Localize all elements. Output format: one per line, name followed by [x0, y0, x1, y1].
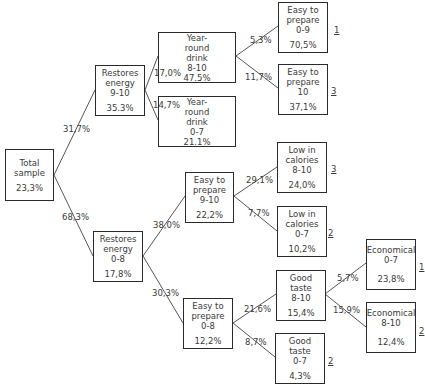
node-value: 70,5%	[289, 40, 316, 50]
node-value: 12,2%	[194, 336, 221, 346]
node-good-taste-0-7: Good taste 0-7 4,3%	[275, 333, 325, 384]
node-value: 23,3%	[16, 183, 43, 193]
rank-marker: 1	[334, 25, 339, 35]
node-label: Economical 8-10	[367, 308, 416, 328]
node-value: 23,8%	[377, 274, 404, 284]
edge-label: 8,7%	[245, 337, 267, 347]
node-label: Total sample	[14, 158, 45, 178]
node-value: 15,4%	[287, 308, 314, 318]
node-label: Year- round drink 0-7	[185, 97, 210, 137]
node-label: Year- round drink 8-10	[185, 33, 210, 73]
edge-label: 15,9%	[333, 305, 360, 315]
node-value: 37,1%	[289, 102, 316, 112]
node-easy-to-prepare-0-8: Easy to prepare 0-8 12,2%	[183, 298, 233, 349]
node-value: 47.5%	[183, 73, 210, 83]
node-restores-energy-0-8: Restores energy 0-8 17,8%	[93, 231, 143, 282]
node-label: Good taste 8-10	[290, 273, 312, 303]
node-value: 10,2%	[288, 244, 315, 254]
node-label: Low in calories 0-7	[286, 209, 319, 239]
node-label: Easy to prepare 0-9	[286, 5, 319, 35]
node-label: Easy to prepare 9-10	[193, 175, 226, 205]
node-easy-to-prepare-9-10: Easy to prepare 9-10 22,2%	[185, 172, 234, 223]
node-value: 21.1%	[183, 137, 210, 147]
rank-marker: 3	[331, 164, 336, 174]
node-total-sample: Total sample 23,3%	[5, 149, 54, 201]
node-value: 12,4%	[377, 337, 404, 347]
edge-label: 17,0%	[154, 68, 181, 78]
edge-label: 11,7%	[245, 72, 272, 82]
edge-label: 5,7%	[337, 273, 359, 283]
node-value: 22,2%	[196, 210, 223, 220]
node-easy-to-prepare-10: Easy to prepare 10 37,1%	[278, 64, 328, 115]
edge-label: 29,1%	[246, 175, 273, 185]
node-label: Low in calories 8-10	[286, 145, 319, 175]
edge-label: 30,3%	[152, 288, 179, 298]
rank-marker: 1	[419, 262, 424, 272]
node-label: Easy to prepare 0-8	[191, 301, 224, 331]
node-label: Good taste 0-7	[289, 336, 311, 366]
node-low-in-calories-0-7: Low in calories 0-7 10,2%	[277, 206, 327, 257]
node-label: Restores energy 9-10	[102, 68, 139, 98]
rank-marker: 2	[328, 356, 333, 366]
node-label: Easy to prepare 10	[286, 67, 319, 97]
node-good-taste-8-10: Good taste 8-10 15,4%	[276, 270, 326, 321]
node-value: 4,3%	[289, 371, 311, 381]
node-economical-8-10: Economical 8-10 12,4%	[366, 302, 416, 353]
node-restores-energy-9-10: Restores energy 9-10 35.3%	[95, 65, 145, 116]
edge-label: 31,7%	[63, 124, 90, 134]
edge-label: 7,7%	[248, 208, 270, 218]
rank-marker: 3	[331, 86, 336, 96]
node-economical-0-7: Economical 0-7 23,8%	[366, 239, 416, 290]
edge-label: 5,3%	[250, 35, 272, 45]
node-label: Restores energy 0-8	[100, 234, 137, 264]
edge-label: 68,3%	[62, 212, 89, 222]
node-low-in-calories-8-10: Low in calories 8-10 24,0%	[277, 142, 327, 193]
rank-marker: 2	[419, 326, 424, 336]
rank-marker: 2	[328, 228, 333, 238]
node-value: 24,0%	[288, 180, 315, 190]
node-easy-to-prepare-0-9: Easy to prepare 0-9 70,5%	[278, 2, 328, 53]
edge-label: 14,7%	[153, 100, 180, 110]
node-value: 17,8%	[104, 269, 131, 279]
node-label: Economical 0-7	[367, 245, 416, 265]
edge-label: 21,6%	[244, 304, 271, 314]
node-value: 35.3%	[106, 103, 133, 113]
edge-label: 38,0%	[153, 220, 180, 230]
